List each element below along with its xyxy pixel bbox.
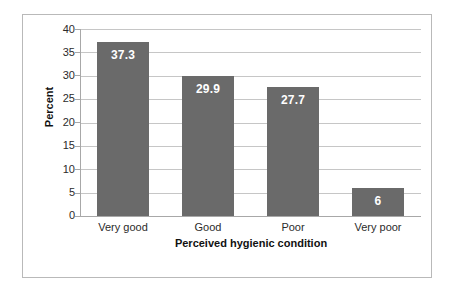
chart-figure: Percent 40 35 30 25 20 15 10 5 0 [0, 0, 452, 300]
bar-very-poor[interactable]: 6 [352, 188, 404, 216]
x-tick-label-very-poor: Very poor [328, 221, 428, 233]
gridline-baseline-0 [81, 216, 421, 217]
y-tick-label-0: 0 [45, 210, 75, 221]
y-tick-label-25: 25 [45, 93, 75, 104]
bar-good[interactable]: 29.9 [182, 76, 234, 216]
chart-frame: Percent 40 35 30 25 20 15 10 5 0 [22, 14, 432, 278]
x-axis-title: Perceived hygienic condition [81, 237, 421, 249]
y-tick-label-5: 5 [45, 187, 75, 198]
y-axis-tick-labels: 40 35 30 25 20 15 10 5 0 [31, 29, 75, 217]
bar-value-very-poor: 6 [352, 194, 404, 208]
y-tick-label-40: 40 [45, 24, 75, 35]
bar-value-poor: 27.7 [267, 93, 319, 107]
gridline-40 [81, 29, 421, 30]
y-tick-label-20: 20 [45, 117, 75, 128]
plot-area: 37.3 29.9 27.7 6 Very good Good Poor Ver… [81, 29, 421, 216]
y-tick-label-10: 10 [45, 164, 75, 175]
bar-poor[interactable]: 27.7 [267, 87, 319, 216]
bar-very-good[interactable]: 37.3 [97, 42, 149, 216]
y-tick-label-30: 30 [45, 70, 75, 81]
y-tick-label-35: 35 [45, 47, 75, 58]
bar-value-good: 29.9 [182, 82, 234, 96]
y-tick-label-15: 15 [45, 140, 75, 151]
bar-value-very-good: 37.3 [97, 48, 149, 62]
